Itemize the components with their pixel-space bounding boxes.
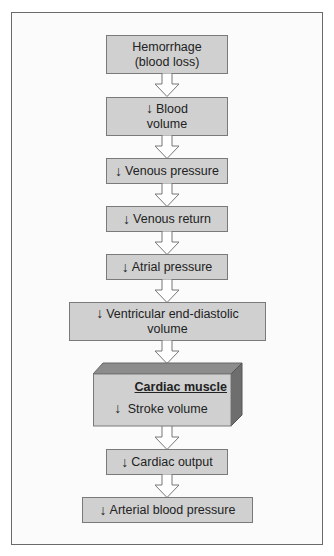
node-label: Stroke volume <box>128 402 208 416</box>
flow-arrow-icon <box>153 135 181 159</box>
node-cardiac-output: ↓ Cardiac output <box>106 449 228 475</box>
decrease-arrow-icon: ↓ <box>100 503 107 518</box>
decrease-arrow-icon: ↓ <box>122 260 129 275</box>
node-atrial-pressure: ↓ Atrial pressure <box>106 254 228 280</box>
decrease-arrow-icon: ↓ <box>96 305 103 321</box>
flow-arrow-icon <box>153 474 181 498</box>
flow-arrow-icon <box>153 279 181 303</box>
decrease-arrow-icon: ↓ <box>121 455 128 470</box>
node-label: Arterial blood pressure <box>110 503 236 518</box>
decrease-arrow-icon: ↓ <box>146 100 153 116</box>
node-label: Blood <box>156 102 188 116</box>
node-arterial-bp: ↓ Arterial blood pressure <box>82 497 253 523</box>
node-label: volume <box>147 117 187 132</box>
decrease-arrow-icon: ↓ <box>115 164 122 179</box>
node-label: Atrial pressure <box>132 260 213 275</box>
cardiac-muscle-title: Cardiac muscle <box>135 380 227 394</box>
node-venous-return: ↓ Venous return <box>106 206 228 232</box>
flow-arrow-icon <box>153 73 181 97</box>
node-cardiac-muscle: Cardiac muscle ↓ Stroke volume <box>93 362 243 428</box>
decrease-arrow-icon: ↓ <box>114 400 121 416</box>
flow-arrow-icon <box>153 231 181 255</box>
node-label: volume <box>147 322 187 337</box>
node-label: Venous pressure <box>125 164 219 179</box>
node-hemorrhage: Hemorrhage (blood loss) <box>106 35 228 74</box>
node-label: Venous return <box>133 212 211 227</box>
node-venous-pressure: ↓ Venous pressure <box>106 158 228 184</box>
node-label: Hemorrhage <box>132 40 201 55</box>
cube-shape-icon <box>93 362 243 428</box>
node-label: Cardiac output <box>131 455 212 470</box>
flow-arrow-icon <box>153 426 181 450</box>
node-label: (blood loss) <box>135 55 200 70</box>
node-blood-volume: ↓Blood volume <box>106 97 228 136</box>
flow-arrow-icon <box>153 183 181 207</box>
flow-arrow-icon <box>153 340 181 364</box>
node-label: Ventricular end-diastolic <box>106 307 239 321</box>
node-ventricular-edv: ↓Ventricular end-diastolic volume <box>69 302 266 341</box>
decrease-arrow-icon: ↓ <box>123 212 130 227</box>
